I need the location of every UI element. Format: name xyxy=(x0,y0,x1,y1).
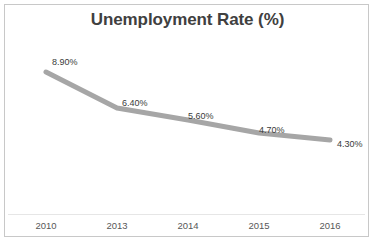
x-tick-label-2014: 2014 xyxy=(158,221,218,231)
data-label-2010: 8.90% xyxy=(52,58,78,67)
unemployment-rate-line xyxy=(46,72,330,140)
data-label-2014: 5.60% xyxy=(188,112,214,121)
chart-container: Unemployment Rate (%) 8.90% 6.40% 5.60% … xyxy=(0,0,375,243)
x-tick-label-2013: 2013 xyxy=(87,221,147,231)
data-label-2016: 4.30% xyxy=(337,140,363,149)
x-tick-label-2016: 2016 xyxy=(300,221,360,231)
data-label-2015: 4.70% xyxy=(259,126,285,135)
data-label-2013: 6.40% xyxy=(122,99,148,108)
x-tick-label-2015: 2015 xyxy=(229,221,289,231)
line-series-svg xyxy=(0,0,375,243)
x-axis-line xyxy=(8,214,365,215)
x-tick-label-2010: 2010 xyxy=(16,221,76,231)
plot-area: 8.90% 6.40% 5.60% 4.70% 4.30% xyxy=(0,0,375,243)
